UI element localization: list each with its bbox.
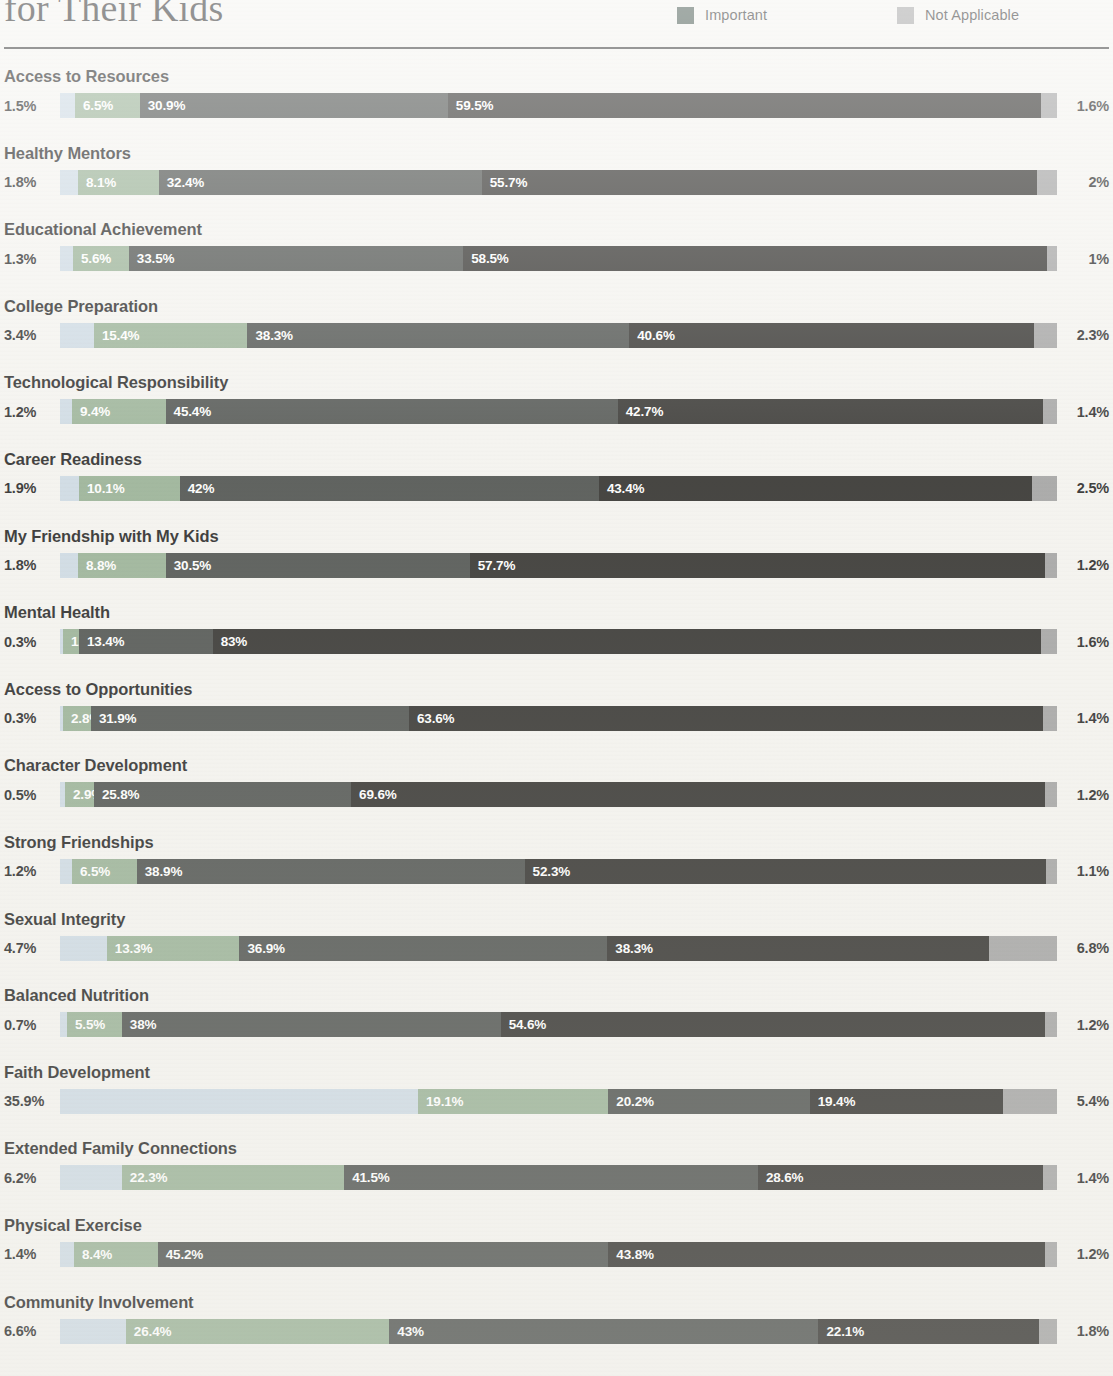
- bar-segment-not-applicable[interactable]: [1003, 1089, 1057, 1114]
- bar-segment-not-applicable[interactable]: [1043, 706, 1057, 731]
- bar-segment-important[interactable]: 55.7%: [482, 170, 1037, 195]
- bar-segment-mildly-important[interactable]: 30.5%: [166, 553, 470, 578]
- stacked-bar[interactable]: 8.8%30.5%57.7%: [60, 553, 1057, 578]
- bar-segment-not-applicable[interactable]: [1037, 170, 1057, 195]
- bar-segment-slightly-important[interactable]: 19.1%: [418, 1089, 608, 1114]
- stacked-bar[interactable]: 22.3%41.5%28.6%: [60, 1165, 1057, 1190]
- bar-segment-important[interactable]: 28.6%: [758, 1165, 1043, 1190]
- bar-segment-mildly-important[interactable]: 38.3%: [247, 323, 629, 348]
- bar-segment-slightly-important[interactable]: 13.3%: [107, 936, 240, 961]
- bar-segment-not-important[interactable]: [60, 1319, 126, 1344]
- bar-segment-mildly-important[interactable]: 41.5%: [344, 1165, 758, 1190]
- bar-segment-mildly-important[interactable]: 45.2%: [158, 1242, 609, 1267]
- bar-segment-not-applicable[interactable]: [1045, 1012, 1057, 1037]
- bar-segment-mildly-important[interactable]: 32.4%: [159, 170, 482, 195]
- bar-segment-not-applicable[interactable]: [1046, 859, 1057, 884]
- bar-segment-mildly-important[interactable]: 31.9%: [91, 706, 409, 731]
- bar-segment-mildly-important[interactable]: 30.9%: [140, 93, 448, 118]
- bar-segment-not-important[interactable]: [60, 1089, 418, 1114]
- bar-segment-not-important[interactable]: [60, 936, 107, 961]
- bar-segment-slightly-important[interactable]: 8.4%: [74, 1242, 158, 1267]
- stacked-bar[interactable]: 19.1%20.2%19.4%: [60, 1089, 1057, 1114]
- bar-segment-not-important[interactable]: [60, 246, 73, 271]
- legend-item-not-applicable[interactable]: Not Applicable: [897, 7, 1107, 24]
- bar-segment-mildly-important[interactable]: 45.4%: [166, 399, 618, 424]
- bar-segment-not-important[interactable]: [60, 170, 78, 195]
- bar-segment-not-important[interactable]: [60, 859, 72, 884]
- bar-segment-not-applicable[interactable]: [1045, 1242, 1057, 1267]
- bar-segment-not-applicable[interactable]: [1045, 553, 1057, 578]
- bar-segment-slightly-important[interactable]: 5.5%: [67, 1012, 122, 1037]
- stacked-bar[interactable]: 5.5%38%54.6%: [60, 1012, 1057, 1037]
- bar-segment-mildly-important[interactable]: 25.8%: [94, 782, 351, 807]
- stacked-bar[interactable]: 9.4%45.4%42.7%: [60, 399, 1057, 424]
- bar-segment-important[interactable]: 57.7%: [470, 553, 1045, 578]
- bar-segment-not-applicable[interactable]: [1047, 246, 1057, 271]
- bar-segment-mildly-important[interactable]: 42%: [180, 476, 599, 501]
- bar-segment-important[interactable]: 40.6%: [629, 323, 1034, 348]
- bar-segment-mildly-important[interactable]: 13.4%: [79, 629, 213, 654]
- stacked-bar[interactable]: 8.4%45.2%43.8%: [60, 1242, 1057, 1267]
- stacked-bar[interactable]: 10.1%42%43.4%: [60, 476, 1057, 501]
- bar-segment-important[interactable]: 42.7%: [618, 399, 1043, 424]
- bar-segment-not-applicable[interactable]: [1043, 399, 1057, 424]
- bar-segment-slightly-important[interactable]: 8.1%: [78, 170, 159, 195]
- bar-segment-not-applicable[interactable]: [1041, 629, 1057, 654]
- bar-segment-mildly-important[interactable]: 33.5%: [129, 246, 463, 271]
- bar-segment-not-applicable[interactable]: [1034, 323, 1057, 348]
- stacked-bar[interactable]: 13.3%36.9%38.3%: [60, 936, 1057, 961]
- bar-segment-not-applicable[interactable]: [989, 936, 1057, 961]
- bar-segment-slightly-important[interactable]: 2.9%: [65, 782, 94, 807]
- bar-segment-not-important[interactable]: [60, 399, 72, 424]
- bar-segment-not-important[interactable]: [60, 553, 78, 578]
- bar-segment-slightly-important[interactable]: 5.6%: [73, 246, 129, 271]
- bar-segment-not-applicable[interactable]: [1032, 476, 1057, 501]
- bar-segment-not-important[interactable]: [60, 1242, 74, 1267]
- bar-segment-not-applicable[interactable]: [1041, 93, 1057, 118]
- bar-segment-important[interactable]: 83%: [213, 629, 1041, 654]
- bar-segment-slightly-important[interactable]: 22.3%: [122, 1165, 344, 1190]
- stacked-bar[interactable]: 2.8%31.9%63.6%: [60, 706, 1057, 731]
- stacked-bar[interactable]: 26.4%43%22.1%: [60, 1319, 1057, 1344]
- bar-segment-slightly-important[interactable]: 6.5%: [72, 859, 137, 884]
- stacked-bar[interactable]: 2.9%25.8%69.6%: [60, 782, 1057, 807]
- stacked-bar[interactable]: 6.5%38.9%52.3%: [60, 859, 1057, 884]
- stacked-bar[interactable]: 1.6%13.4%83%: [60, 629, 1057, 654]
- bar-segment-important[interactable]: 43.8%: [608, 1242, 1045, 1267]
- bar-segment-slightly-important[interactable]: 15.4%: [94, 323, 248, 348]
- bar-segment-not-applicable[interactable]: [1045, 782, 1057, 807]
- bar-segment-important[interactable]: 22.1%: [818, 1319, 1039, 1344]
- bar-segment-not-important[interactable]: [60, 93, 75, 118]
- bar-segment-mildly-important[interactable]: 38.9%: [137, 859, 525, 884]
- bar-segment-important[interactable]: 69.6%: [351, 782, 1045, 807]
- stacked-bar[interactable]: 5.6%33.5%58.5%: [60, 246, 1057, 271]
- bar-segment-important[interactable]: 54.6%: [501, 1012, 1045, 1037]
- bar-segment-mildly-important[interactable]: 36.9%: [239, 936, 607, 961]
- bar-segment-not-important[interactable]: [60, 1012, 67, 1037]
- bar-segment-mildly-important[interactable]: 38%: [122, 1012, 501, 1037]
- bar-segment-mildly-important[interactable]: 43%: [389, 1319, 818, 1344]
- stacked-bar[interactable]: 6.5%30.9%59.5%: [60, 93, 1057, 118]
- bar-segment-slightly-important[interactable]: 10.1%: [79, 476, 180, 501]
- bar-segment-not-applicable[interactable]: [1043, 1165, 1057, 1190]
- bar-segment-not-important[interactable]: [60, 476, 79, 501]
- bar-segment-slightly-important[interactable]: 2.8%: [63, 706, 91, 731]
- bar-segment-slightly-important[interactable]: 6.5%: [75, 93, 140, 118]
- stacked-bar[interactable]: 15.4%38.3%40.6%: [60, 323, 1057, 348]
- bar-segment-slightly-important[interactable]: 8.8%: [78, 553, 166, 578]
- bar-segment-slightly-important[interactable]: 1.6%: [63, 629, 79, 654]
- bar-segment-important[interactable]: 59.5%: [448, 93, 1041, 118]
- bar-segment-important[interactable]: 19.4%: [810, 1089, 1003, 1114]
- bar-segment-important[interactable]: 43.4%: [599, 476, 1032, 501]
- bar-segment-important[interactable]: 52.3%: [525, 859, 1046, 884]
- bar-segment-important[interactable]: 58.5%: [463, 246, 1047, 271]
- bar-segment-important[interactable]: 38.3%: [607, 936, 989, 961]
- bar-segment-important[interactable]: 63.6%: [409, 706, 1043, 731]
- bar-segment-not-important[interactable]: [60, 323, 94, 348]
- stacked-bar[interactable]: 8.1%32.4%55.7%: [60, 170, 1057, 195]
- bar-segment-mildly-important[interactable]: 20.2%: [608, 1089, 809, 1114]
- bar-segment-not-applicable[interactable]: [1039, 1319, 1057, 1344]
- bar-segment-slightly-important[interactable]: 26.4%: [126, 1319, 389, 1344]
- bar-segment-not-important[interactable]: [60, 1165, 122, 1190]
- bar-segment-slightly-important[interactable]: 9.4%: [72, 399, 166, 424]
